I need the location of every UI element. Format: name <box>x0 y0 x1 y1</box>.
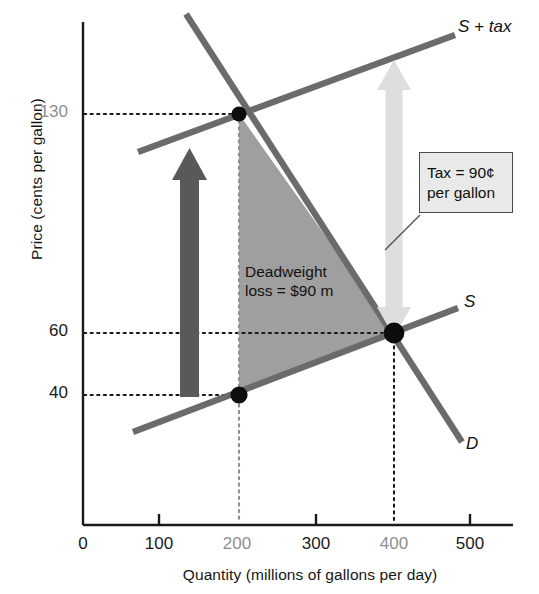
marker-no-tax-equilibrium <box>384 323 405 344</box>
y-tick-label-130: 130 <box>8 102 68 122</box>
tax-wedge-arrow-shaft <box>386 82 403 315</box>
deadweight-loss-annotation: Deadweight loss = $90 m <box>245 263 333 301</box>
marker-with-tax-equilibrium <box>231 106 246 121</box>
price-rise-arrow-head <box>172 148 207 180</box>
tax-callout-line-1: Tax = 90¢ <box>427 163 512 182</box>
price-rise-arrow <box>172 148 207 397</box>
deadweight-loss-line-2: loss = $90 m <box>245 282 333 301</box>
demand-curve <box>186 14 462 442</box>
x-axis-title: Quantity (millions of gallons per day) <box>90 566 530 584</box>
deadweight-loss-region <box>239 114 394 395</box>
x-tick-label-500: 500 <box>448 534 492 554</box>
tax-callout-line-2: per gallon <box>427 183 512 202</box>
curve-label-demand: D <box>466 434 478 454</box>
x-tick-label-0: 0 <box>61 534 105 554</box>
curve-label-supply-plus-tax: S + tax <box>458 17 511 37</box>
x-tick-label-400: 400 <box>372 534 416 554</box>
x-tick-label-200: 200 <box>215 534 259 554</box>
curve-label-supply: S <box>464 292 475 312</box>
supply-demand-tax-chart: Price (cents per gallon) Quantity (milli… <box>0 0 539 594</box>
marker-seller-price <box>230 386 247 403</box>
y-axis-title: Price (cents per gallon) <box>28 64 46 294</box>
y-tick-label-60: 60 <box>8 321 68 341</box>
deadweight-loss-line-1: Deadweight <box>245 263 333 282</box>
price-rise-arrow-shaft <box>180 175 199 397</box>
tax-wedge-arrow <box>377 60 411 337</box>
y-tick-label-40: 40 <box>8 383 68 403</box>
tax-callout-box: Tax = 90¢ per gallon <box>419 152 513 213</box>
x-tick-label-100: 100 <box>137 534 181 554</box>
x-tick-label-300: 300 <box>294 534 338 554</box>
supply-plus-tax-curve <box>138 35 455 152</box>
